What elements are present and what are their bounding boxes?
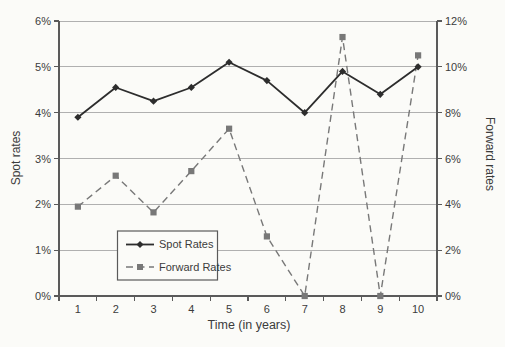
x-tick-label: 3 <box>150 303 156 315</box>
right-tick-label: 6% <box>445 153 461 165</box>
series-line-spot-rates <box>78 62 418 117</box>
right-axis-title: Forward rates <box>483 117 497 191</box>
square-marker <box>188 168 194 174</box>
x-tick-label: 7 <box>302 303 308 315</box>
square-marker <box>302 293 308 299</box>
square-marker <box>339 34 345 40</box>
square-marker <box>75 204 81 210</box>
square-marker <box>113 173 119 179</box>
left-tick-label: 1% <box>35 244 51 256</box>
square-marker <box>226 126 232 132</box>
left-tick-label: 3% <box>35 153 51 165</box>
legend-forward-label: Forward Rates <box>159 261 232 273</box>
x-tick-label: 6 <box>264 303 270 315</box>
square-marker <box>415 52 421 58</box>
right-tick-label: 2% <box>445 244 461 256</box>
square-marker <box>377 293 383 299</box>
left-tick-label: 2% <box>35 198 51 210</box>
left-axis-title: Spot rates <box>9 131 23 186</box>
square-marker <box>150 209 156 215</box>
x-tick-label: 9 <box>377 303 383 315</box>
legend: Spot Rates Forward Rates <box>118 231 232 280</box>
legend-spot-label: Spot Rates <box>159 238 214 250</box>
square-marker <box>264 233 270 239</box>
right-tick-label: 12% <box>445 15 467 27</box>
diamond-marker <box>150 98 157 105</box>
x-tick-label: 2 <box>113 303 119 315</box>
right-tick-label: 4% <box>445 198 461 210</box>
left-tick-label: 4% <box>35 107 51 119</box>
chart-container: 0%1%2%3%4%5%6%0%2%4%6%8%10%12%1234567891… <box>0 0 505 347</box>
left-tick-label: 0% <box>35 290 51 302</box>
left-tick-label: 6% <box>35 15 51 27</box>
chart-svg: 0%1%2%3%4%5%6%0%2%4%6%8%10%12%1234567891… <box>0 0 505 347</box>
legend-forward-marker-icon <box>137 264 143 270</box>
right-tick-label: 10% <box>445 61 467 73</box>
right-tick-label: 0% <box>445 290 461 302</box>
x-tick-label: 4 <box>188 303 194 315</box>
left-tick-label: 5% <box>35 61 51 73</box>
plot-layer: 0%1%2%3%4%5%6%0%2%4%6%8%10%12%1234567891… <box>35 15 467 315</box>
x-tick-label: 5 <box>226 303 232 315</box>
x-axis-title: Time (in years) <box>208 318 291 332</box>
right-tick-label: 8% <box>445 107 461 119</box>
x-tick-label: 8 <box>339 303 345 315</box>
x-tick-label: 1 <box>75 303 81 315</box>
x-tick-label: 10 <box>412 303 424 315</box>
